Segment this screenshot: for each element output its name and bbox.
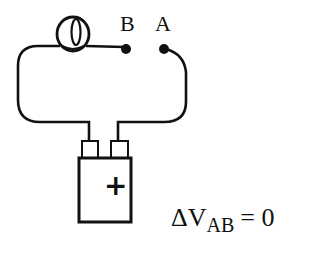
circuit-diagram: B A + ΔVAB= 0 xyxy=(0,0,327,253)
equation-relation: = 0 xyxy=(240,203,274,232)
equation-subscript: AB xyxy=(207,214,235,236)
point-b-dot xyxy=(121,44,131,54)
point-a-dot xyxy=(159,44,169,54)
point-a-label: A xyxy=(155,11,171,36)
battery-plus-symbol: + xyxy=(104,169,127,202)
wire-bulb-to-b xyxy=(86,46,124,47)
point-b-label: B xyxy=(120,11,135,36)
equation: ΔVAB= 0 xyxy=(171,203,274,236)
wire-left xyxy=(18,46,89,143)
equation-delta: Δ xyxy=(171,203,188,232)
wire-right xyxy=(118,49,186,143)
bulb-icon xyxy=(57,17,89,51)
equation-variable: V xyxy=(188,203,207,232)
